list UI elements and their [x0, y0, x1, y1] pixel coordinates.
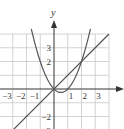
x-tick-label: 2 — [83, 91, 88, 101]
line-series — [6, 34, 109, 129]
x-axis-arrow-icon — [116, 86, 124, 92]
y-axis-arrow-icon — [51, 20, 57, 28]
y-tick-labels: 32−2−3 — [41, 43, 51, 129]
y-axis-label: y — [50, 7, 56, 18]
function-graph: y −3−2−1123 32−2−3 — [0, 0, 124, 129]
x-tick-label: −2 — [16, 91, 26, 101]
y-tick-label: −2 — [41, 112, 51, 122]
x-tick-labels: −3−2−1123 — [2, 91, 101, 101]
x-tick-label: −1 — [30, 91, 40, 101]
x-tick-label: 3 — [96, 91, 101, 101]
y-tick-label: 3 — [47, 43, 52, 53]
y-tick-label: 2 — [47, 57, 52, 67]
y-tick-label: −3 — [41, 126, 51, 129]
y-axis — [51, 20, 57, 129]
x-tick-label: 1 — [69, 91, 74, 101]
x-tick-label: −3 — [2, 91, 12, 101]
